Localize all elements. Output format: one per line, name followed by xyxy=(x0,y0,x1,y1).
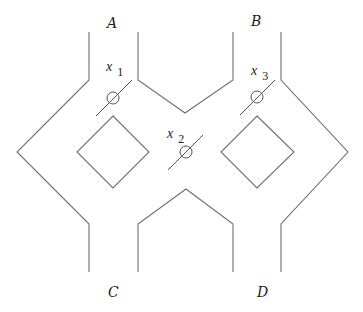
valve-subscript: 1 xyxy=(117,65,123,79)
flow-network-diagram xyxy=(0,0,363,312)
bottom-center-wall xyxy=(138,189,233,272)
valve-label-x2: x2 xyxy=(167,127,179,141)
valve-x1 xyxy=(96,80,132,116)
outer-right-wall xyxy=(281,32,348,272)
terminal-label-a: A xyxy=(107,16,117,30)
valve-var: x xyxy=(167,126,173,141)
valve-x3 xyxy=(240,80,275,115)
valve-var: x xyxy=(106,59,112,74)
valve-var: x xyxy=(251,63,257,78)
left-diamond-island xyxy=(77,116,149,188)
top-center-wall xyxy=(138,32,233,113)
terminal-label-b: B xyxy=(251,14,261,28)
outer-left-wall xyxy=(17,32,89,272)
valve-label-x1: x1 xyxy=(106,60,118,74)
terminal-label-d: D xyxy=(257,285,268,299)
terminal-label-c: C xyxy=(108,285,119,299)
right-diamond-island xyxy=(221,116,294,188)
valve-subscript: 2 xyxy=(178,132,184,146)
valve-subscript: 3 xyxy=(262,69,268,83)
valve-label-x3: x3 xyxy=(251,64,263,78)
